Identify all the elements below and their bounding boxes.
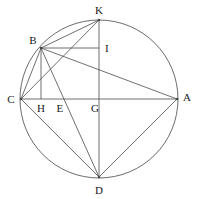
point-label-c: C — [7, 94, 15, 105]
vertex-dot-k — [98, 19, 101, 22]
point-label-d: D — [95, 185, 103, 196]
segment-ba — [41, 48, 177, 99]
segment-ck — [21, 20, 99, 99]
point-label-g: G — [91, 103, 99, 114]
point-label-h: H — [37, 103, 45, 114]
point-label-b: B — [29, 35, 37, 46]
point-label-k: K — [95, 5, 103, 16]
vertex-dot-d — [98, 176, 101, 179]
point-label-i: I — [105, 43, 109, 54]
vertex-dot-c — [20, 98, 23, 101]
geometry-figure: KBICHEGAD — [0, 0, 198, 199]
vertex-dot-a — [176, 98, 179, 101]
point-label-a: A — [183, 92, 191, 103]
point-label-e: E — [57, 103, 64, 114]
diagram-canvas — [0, 0, 198, 199]
segment-bk — [41, 20, 99, 48]
vertex-dot-b — [40, 47, 43, 50]
segment-da — [99, 99, 177, 177]
